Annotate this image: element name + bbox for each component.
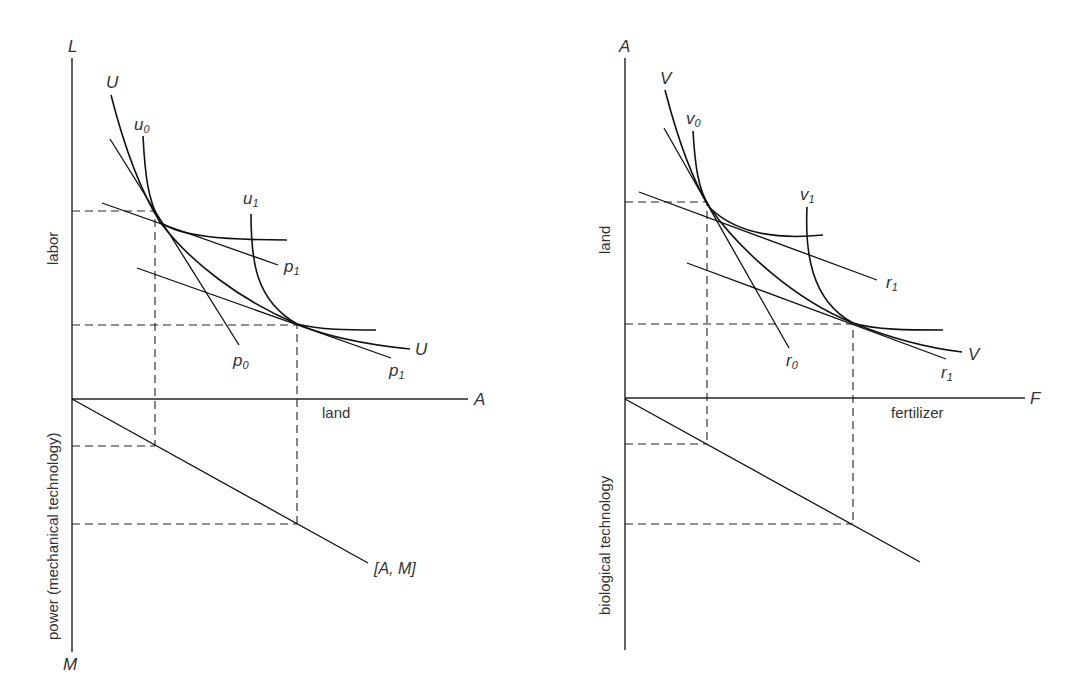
- induced-innovation-diagram: L A M land labor power (mechanical techn…: [0, 0, 1071, 694]
- right-y-upper-label: land: [596, 226, 613, 254]
- label-v1: v1: [800, 185, 815, 205]
- right-y-lower-label: biological technology: [596, 475, 613, 615]
- left-isoquant-u1: [251, 214, 376, 330]
- left-axis-symbol-A: A: [473, 390, 485, 409]
- label-U-top: U: [106, 73, 119, 92]
- left-axis-symbol-M: M: [63, 655, 78, 674]
- left-y-upper-label: labor: [44, 232, 61, 265]
- label-U-right: U: [415, 340, 428, 359]
- right-price-line-r0: [664, 128, 789, 348]
- left-guide-2: [72, 325, 297, 524]
- right-isoquant-v0: [693, 131, 823, 236]
- right-price-line-r1-lower: [687, 263, 946, 359]
- right-axis-symbol-F: F: [1030, 389, 1042, 408]
- label-ray-AM: [A, M]: [373, 560, 416, 577]
- left-y-lower-label: power (mechanical technology): [44, 432, 61, 640]
- left-axis-symbol-L: L: [68, 37, 77, 56]
- left-panel: L A M land labor power (mechanical techn…: [44, 37, 485, 674]
- label-p0: p0: [232, 351, 249, 371]
- left-price-line-p1-lower: [137, 268, 391, 358]
- label-V-right: V: [968, 345, 981, 364]
- label-p1-upper: p1: [283, 257, 300, 277]
- label-p1-lower: p1: [388, 361, 405, 381]
- label-r0: r0: [786, 351, 799, 371]
- right-ray: [625, 399, 920, 562]
- label-v0: v0: [686, 109, 702, 129]
- right-panel: A F fertilizer land biological technolog…: [596, 37, 1042, 650]
- left-ray-AM: [72, 399, 368, 563]
- label-u0: u0: [134, 115, 150, 135]
- left-guide-1: [72, 211, 155, 446]
- right-x-axis-label: fertilizer: [891, 404, 944, 421]
- left-x-axis-label: land: [322, 404, 350, 421]
- left-price-line-p0: [110, 139, 239, 345]
- label-r1-lower: r1: [941, 363, 953, 383]
- right-price-line-r1-upper: [639, 192, 877, 280]
- label-r1-upper: r1: [886, 273, 898, 293]
- label-u1: u1: [243, 189, 259, 209]
- right-axis-symbol-A: A: [618, 37, 630, 56]
- right-innovation-possibility-curve-V: [665, 90, 962, 352]
- label-V-top: V: [660, 69, 673, 88]
